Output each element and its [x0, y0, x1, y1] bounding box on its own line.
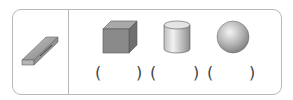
cylinder-icon	[162, 19, 192, 55]
blank-1-close: )	[136, 63, 142, 83]
eraser-icon	[20, 34, 60, 70]
sphere-icon	[215, 19, 251, 55]
blank-2-close: )	[193, 63, 199, 83]
blank-1-open: (	[95, 63, 101, 83]
frame-divider	[68, 9, 69, 95]
cube-icon	[102, 20, 138, 54]
blank-3-open: (	[207, 63, 213, 83]
blank-2-open: (	[150, 63, 156, 83]
blank-3-close: )	[249, 63, 255, 83]
